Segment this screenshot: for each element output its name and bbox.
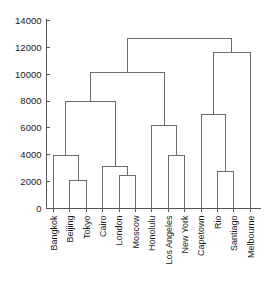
dendrogram-link [218, 172, 234, 209]
dendrogram-links [54, 39, 251, 209]
leaf-label: London [114, 216, 124, 246]
y-tick-label: 6000 [20, 122, 41, 133]
leaf-labels: BangkokBeijingTokyoCairoLondonMoscowHono… [49, 215, 256, 265]
leaf-label: New York [180, 215, 190, 254]
dendrogram-link [201, 114, 226, 208]
leaf-label: Los Angeles [164, 215, 174, 265]
leaf-label: Honolulu [147, 216, 157, 252]
dendrogram-plot-area: 02000400060008000100001200014000 Bangkok… [0, 0, 276, 288]
y-tick-label: 14000 [15, 15, 41, 26]
leaf-label: Cairo [98, 216, 108, 238]
dendrogram-link [54, 155, 79, 208]
x-axis [47, 209, 262, 213]
y-tick-label: 8000 [20, 95, 41, 106]
y-tick-label: 12000 [15, 42, 41, 53]
dendrogram-link [168, 155, 184, 208]
dendrogram-link [66, 101, 115, 167]
y-tick-label: 2000 [20, 176, 41, 187]
leaf-label: Beijing [65, 216, 75, 243]
y-tick-label: 4000 [20, 149, 41, 160]
dendrogram-link [70, 180, 86, 208]
y-axis: 02000400060008000100001200014000 [15, 15, 49, 214]
y-tick-label: 0 [36, 203, 41, 214]
y-tick-label: 10000 [15, 69, 41, 80]
leaf-label: Rio [213, 216, 223, 230]
dendrogram-chart: 02000400060008000100001200014000 Bangkok… [0, 0, 276, 288]
dendrogram-link [103, 167, 128, 209]
leaf-label: Bangkok [49, 215, 59, 251]
dendrogram-link [90, 72, 164, 125]
dendrogram-link [127, 39, 232, 72]
dendrogram-link [119, 176, 135, 209]
leaf-label: Capetown [196, 216, 206, 257]
leaf-label: Melbourne [246, 216, 256, 259]
dendrogram-link [213, 52, 250, 208]
leaf-label: Moscow [131, 215, 141, 249]
leaf-label: Tokyo [82, 216, 92, 240]
leaf-label: Santiago [229, 216, 239, 252]
dendrogram-link [152, 125, 177, 208]
